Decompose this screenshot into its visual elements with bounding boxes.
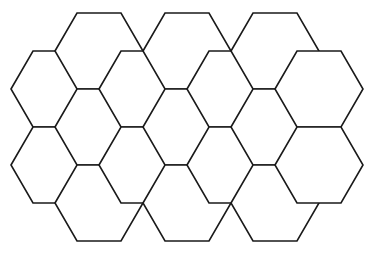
hexagon-tessellation-svg [0, 0, 384, 253]
hexagon-diagram-canvas [0, 0, 384, 253]
hexagon-cell-group [11, 13, 363, 241]
